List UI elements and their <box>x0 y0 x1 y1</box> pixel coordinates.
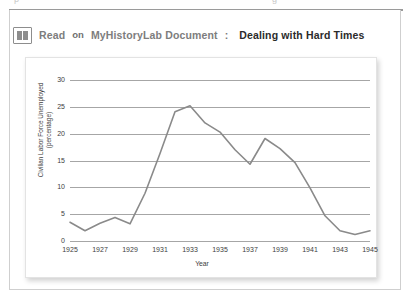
clipped-text-right: g <box>272 0 278 4</box>
document-header[interactable]: Read on MyHistoryLab Document : Dealing … <box>13 24 364 46</box>
chart-panel: Civilian Labor Force Unemployed (percent… <box>25 57 377 278</box>
plot-area: Civilian Labor Force Unemployed (percent… <box>26 58 378 279</box>
book-icon <box>13 27 32 44</box>
data-line <box>70 106 370 235</box>
on-label: on <box>72 30 84 40</box>
header-colon: : <box>225 30 229 41</box>
series-line <box>26 58 378 279</box>
myhistorylab-label: MyHistoryLab Document <box>91 30 218 41</box>
document-title: Dealing with Hard Times <box>239 30 364 41</box>
x-axis-title: Year <box>26 260 378 267</box>
read-label: Read <box>39 30 65 41</box>
clipped-text-left: p <box>14 0 20 4</box>
clipped-text-row: p g <box>0 0 412 7</box>
